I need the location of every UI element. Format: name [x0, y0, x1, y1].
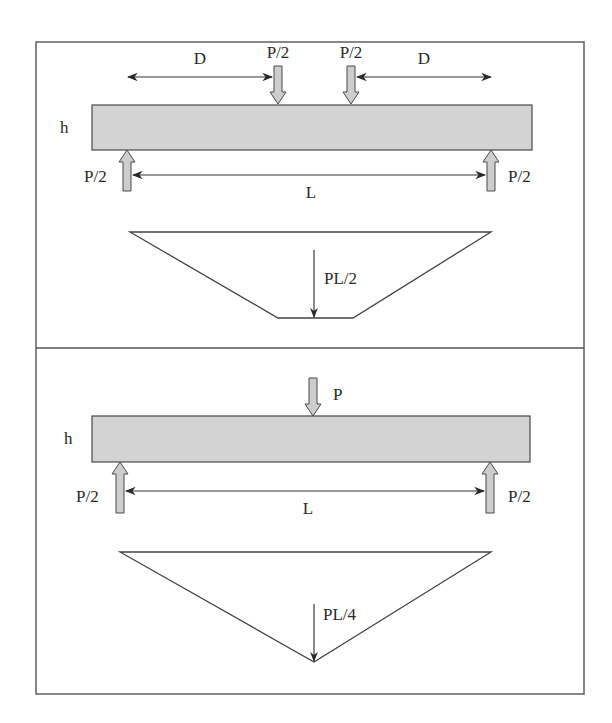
max-moment-label: PL/4 [323, 605, 357, 624]
load-center-arrow-icon [305, 378, 321, 416]
span-label: L [303, 499, 313, 518]
shear-span-left-label: D [194, 49, 206, 68]
load-left-arrow-icon [270, 66, 286, 104]
beam [92, 416, 530, 462]
reaction-right-arrow-icon [482, 462, 498, 513]
reaction-right-arrow-icon [483, 150, 499, 191]
load-center-label: P [333, 385, 342, 404]
beam [92, 105, 532, 150]
moment-diagram-triangle [120, 552, 491, 662]
shear-span-right-label: D [418, 49, 430, 68]
beam-height-label: h [64, 429, 73, 448]
moment-diagram-trapezoid [130, 232, 491, 318]
panel-three-point-bending: P h P/2 P/2 L PL/4 [64, 378, 531, 662]
reaction-left-arrow-icon [119, 150, 135, 191]
load-left-label: P/2 [267, 43, 290, 62]
reaction-left-label: P/2 [76, 487, 99, 506]
max-moment-label: PL/2 [324, 269, 357, 288]
reaction-left-label: P/2 [84, 167, 107, 186]
span-label: L [306, 183, 316, 202]
reaction-right-label: P/2 [508, 487, 531, 506]
reaction-left-arrow-icon [112, 462, 128, 513]
reaction-right-label: P/2 [508, 167, 531, 186]
bending-test-figure: D D P/2 P/2 h P/2 P/2 L PL/2 [0, 0, 612, 723]
beam-height-label: h [60, 118, 69, 137]
load-right-arrow-icon [343, 66, 359, 104]
panel-four-point-bending: D D P/2 P/2 h P/2 P/2 L PL/2 [60, 43, 532, 318]
load-right-label: P/2 [340, 43, 363, 62]
